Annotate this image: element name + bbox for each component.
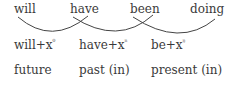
affix-will: will+x⁰	[14, 36, 55, 51]
word-doing: doing	[190, 3, 224, 15]
tense-past: past (in)	[79, 64, 130, 76]
word-been: been	[130, 3, 160, 15]
word-will: will	[14, 3, 36, 15]
affix-be: be+xᵑ	[151, 36, 185, 51]
affix-have: have+xⁿ	[79, 36, 128, 51]
word-have: have	[70, 3, 99, 15]
tense-present: present (in)	[151, 64, 222, 76]
tense-future: future	[14, 64, 52, 76]
